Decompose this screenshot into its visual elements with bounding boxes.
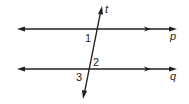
line-p-label: p: [170, 31, 176, 42]
line-t-label: t: [105, 4, 108, 15]
angle-3-label: 3: [76, 72, 82, 83]
line-t: [84, 10, 101, 95]
angle-1-label: 1: [85, 33, 91, 44]
parallel-lines-diagram: [0, 0, 189, 104]
arrow-q-left-icon: [17, 67, 25, 72]
arrow-t-bottom-icon: [82, 90, 87, 99]
line-q-label: q: [170, 71, 176, 82]
arrow-p-left-icon: [17, 27, 25, 32]
angle-2-label: 2: [93, 57, 99, 68]
arrow-t-top-icon: [98, 6, 103, 15]
